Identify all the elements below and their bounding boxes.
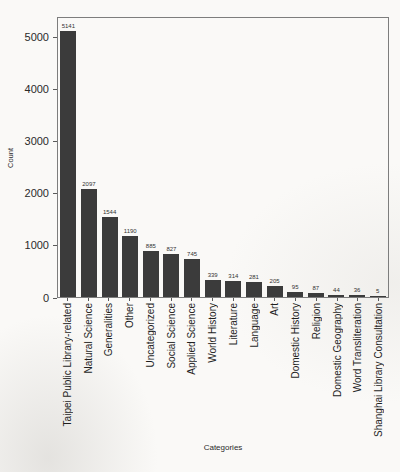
x-tick-mark (274, 298, 275, 301)
bar-group: 205 (267, 18, 283, 297)
bar (102, 217, 118, 297)
x-tick-label: Taipei Public Library-related (61, 303, 74, 426)
bar-value-label: 1544 (103, 209, 116, 216)
bar-group: 339 (205, 18, 221, 297)
bar-group: 281 (246, 18, 262, 297)
x-tick-label: Uncategorized (144, 303, 157, 367)
bar-value-label: 87 (312, 285, 319, 292)
x-tick-mark (295, 298, 296, 301)
bar (287, 292, 303, 297)
bar-value-label: 95 (292, 284, 299, 291)
x-tick-label: Other (123, 303, 136, 328)
x-tick-mark (378, 298, 379, 301)
bar-value-label: 205 (270, 278, 280, 285)
y-tick-label: 2000 (25, 187, 49, 200)
x-tick-label: Domestic History (289, 303, 302, 379)
bar (163, 254, 179, 297)
bar-value-label: 5 (376, 288, 379, 295)
x-tick-label: Applied Science (185, 303, 198, 375)
bar (184, 259, 200, 297)
x-tick-label: Art (268, 303, 281, 316)
bar (370, 296, 386, 297)
bar-group: 44 (328, 18, 344, 297)
bar (143, 251, 159, 297)
x-tick-label: Natural Science (82, 303, 95, 374)
bar (205, 280, 221, 298)
y-axis: 010002000300040005000 (0, 17, 57, 298)
bar-value-label: 281 (249, 274, 259, 281)
x-tick-label: Language (248, 303, 261, 348)
bar (225, 281, 241, 297)
bar-value-label: 1190 (124, 228, 137, 235)
bar-group: 2097 (81, 18, 97, 297)
x-tick-label: World History (206, 303, 219, 363)
y-tick-label: 0 (43, 292, 49, 305)
bar-group: 5141 (60, 18, 76, 297)
x-axis-tick-marks (57, 298, 389, 302)
x-tick-mark (212, 298, 213, 301)
x-tick-mark (67, 298, 68, 301)
bar-group: 5 (370, 18, 386, 297)
bar (267, 286, 283, 297)
x-tick-label: Social Science (165, 303, 178, 369)
bar (308, 293, 324, 297)
x-tick-label: Shanghai Library Consultation (372, 303, 385, 437)
x-tick-label: Word Transliteration (351, 303, 364, 392)
x-tick-mark (150, 298, 151, 301)
bar-group: 1190 (122, 18, 138, 297)
plot-area: 5141209715441190885827745339314281205958… (57, 17, 389, 298)
x-tick-label: Generalities (102, 303, 115, 356)
x-tick-mark (357, 298, 358, 301)
bar-value-label: 827 (166, 246, 176, 253)
bar-group: 36 (349, 18, 365, 297)
x-tick-mark (129, 298, 130, 301)
bar (328, 295, 344, 297)
y-tick-label: 4000 (25, 83, 49, 96)
x-tick-mark (254, 298, 255, 301)
bar-group: 95 (287, 18, 303, 297)
bar (81, 189, 97, 297)
x-tick-mark (108, 298, 109, 301)
bar-chart-figure: Count 010002000300040005000 514120971544… (0, 0, 400, 472)
x-tick-mark (88, 298, 89, 301)
bar (60, 31, 76, 297)
bar-group: 314 (225, 18, 241, 297)
x-tick-mark (233, 298, 234, 301)
bar-value-label: 339 (208, 272, 218, 279)
y-tick-label: 1000 (25, 239, 49, 252)
x-tick-label: Domestic Geography (331, 303, 344, 397)
y-tick-label: 3000 (25, 135, 49, 148)
bar-group: 1544 (102, 18, 118, 297)
bar (122, 236, 138, 297)
x-tick-mark (316, 298, 317, 301)
x-tick-mark (171, 298, 172, 301)
bar (349, 295, 365, 297)
bar-value-label: 2097 (82, 181, 95, 188)
bar (246, 282, 262, 297)
bar-value-label: 745 (187, 251, 197, 258)
bar-value-label: 44 (333, 287, 340, 294)
x-tick-mark (191, 298, 192, 301)
bar-group: 745 (184, 18, 200, 297)
bar-value-label: 36 (354, 287, 361, 294)
bar-group: 87 (308, 18, 324, 297)
bar-group: 885 (143, 18, 159, 297)
x-tick-label: Literature (227, 303, 240, 345)
bar-value-label: 5141 (62, 23, 75, 30)
bar-value-label: 885 (146, 243, 156, 250)
x-axis-tick-labels: Taipei Public Library-relatedNatural Sci… (57, 303, 389, 453)
x-axis-title: Categories (57, 443, 389, 452)
bar-group: 827 (163, 18, 179, 297)
bar-value-label: 314 (228, 273, 238, 280)
y-tick-label: 5000 (25, 31, 49, 44)
x-tick-label: Religion (310, 303, 323, 339)
x-tick-mark (337, 298, 338, 301)
